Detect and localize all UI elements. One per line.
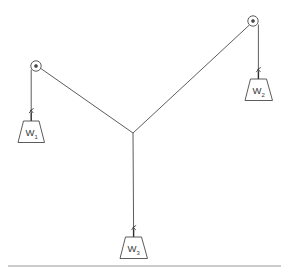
w2-label-main: W	[253, 85, 262, 96]
weight-w1: W1	[18, 109, 45, 143]
w3-label-main: W	[128, 243, 137, 254]
pulley-system-diagram: W1 W2 W3	[0, 0, 289, 278]
pulley-right-axle	[252, 20, 255, 23]
rope-right-span	[133, 25, 250, 133]
weight-w2: W2	[245, 68, 273, 101]
rope-left-span	[40, 68, 133, 133]
weight-w3: W3	[120, 226, 148, 259]
pulley-right	[248, 16, 258, 26]
pulley-left-axle	[35, 65, 38, 68]
pulley-left	[31, 61, 41, 71]
rope-w3-hang	[133, 133, 134, 230]
physics-diagram-canvas: W1 W2 W3	[0, 0, 289, 278]
rope-group	[31, 25, 258, 231]
w1-label-main: W	[26, 127, 35, 138]
